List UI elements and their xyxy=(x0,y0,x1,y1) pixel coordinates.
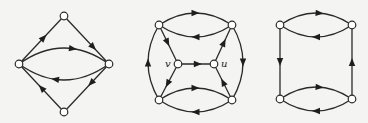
arrowhead-icon xyxy=(240,59,246,67)
arrowhead-icon xyxy=(192,10,200,16)
arrowhead-icon xyxy=(315,10,323,17)
edge-br-to-bl xyxy=(159,100,232,112)
edge-tr-to-tl xyxy=(159,25,232,37)
node-tr xyxy=(348,21,356,29)
node-label-u: u xyxy=(221,58,227,69)
node-tl xyxy=(155,21,163,29)
node-right xyxy=(105,60,113,68)
node-br xyxy=(228,96,236,104)
node-tr xyxy=(228,21,236,29)
edge-tr-to-br xyxy=(232,25,243,100)
node-bl xyxy=(155,96,163,104)
arrowhead-icon xyxy=(277,58,283,66)
graph-figure: vu xyxy=(0,0,368,123)
arrowhead-icon xyxy=(312,34,320,40)
edge-tl-to-tr xyxy=(159,13,232,25)
node-top xyxy=(60,12,68,20)
arrowhead-icon xyxy=(218,77,227,87)
edge-right-to-bottom xyxy=(64,64,109,112)
node-br xyxy=(348,95,356,103)
node-v xyxy=(174,60,182,68)
node-bl xyxy=(276,95,284,103)
node-u xyxy=(210,60,218,68)
arrowhead-icon xyxy=(192,85,200,91)
arrowhead-icon xyxy=(192,109,200,115)
arrowhead-icon xyxy=(219,38,228,48)
edge-bl-to-br xyxy=(159,88,232,100)
arrowhead-icon xyxy=(315,84,323,91)
edge-bl-to-tl xyxy=(148,25,159,100)
edge-tr-to-tl xyxy=(280,25,352,37)
node-bottom xyxy=(60,108,68,116)
edge-top-to-right xyxy=(64,16,109,64)
arrowhead-icon xyxy=(145,59,151,67)
arrowhead-icon xyxy=(163,79,172,89)
edge-br-to-bl xyxy=(280,99,352,111)
directed-graph-rectangle xyxy=(276,10,356,115)
directed-graph-diamond xyxy=(15,12,113,116)
arrowhead-icon xyxy=(192,34,200,40)
node-left xyxy=(15,60,23,68)
arrowhead-icon xyxy=(163,38,172,48)
arrowhead-icon xyxy=(194,61,202,67)
node-label-v: v xyxy=(165,58,171,69)
arrowhead-icon xyxy=(312,108,320,114)
node-tl xyxy=(276,21,284,29)
arrowhead-icon xyxy=(349,58,355,66)
directed-graph-with-uv: vu xyxy=(145,10,246,115)
